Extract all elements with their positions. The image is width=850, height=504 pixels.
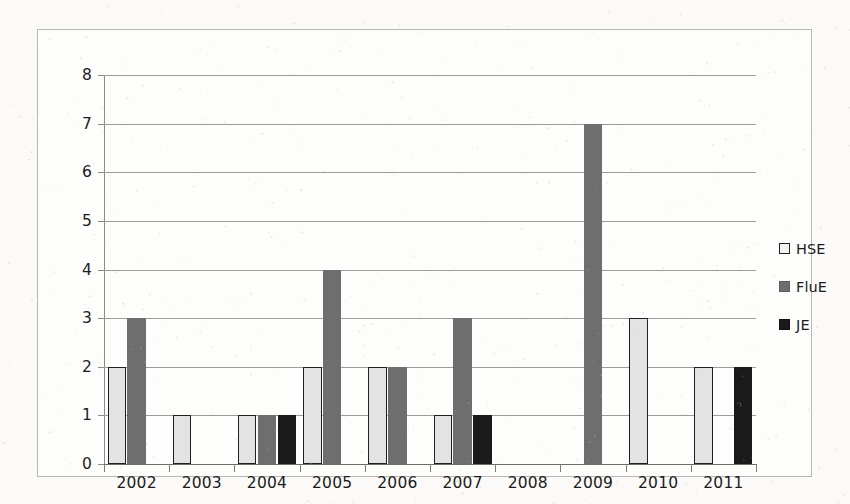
x-tick-label-2003: 2003 <box>169 474 234 492</box>
y-tick-mark-0 <box>98 464 104 465</box>
chart-legend: HSEFluEJE <box>779 234 827 348</box>
y-tick-mark-3 <box>98 318 104 319</box>
x-tick-mark-2 <box>234 464 235 472</box>
bar-flue-2004 <box>258 415 276 464</box>
gridline-y-4 <box>104 270 756 271</box>
y-tick-label-7: 7 <box>70 115 92 133</box>
gridline-y-2 <box>104 367 756 368</box>
legend-item-hse: HSE <box>779 234 827 263</box>
y-tick-mark-1 <box>98 415 104 416</box>
x-tick-mark-5 <box>430 464 431 472</box>
y-tick-mark-6 <box>98 172 104 173</box>
x-tick-mark-1 <box>169 464 170 472</box>
plot-area <box>104 75 756 464</box>
legend-label-flue: FluE <box>796 279 827 295</box>
x-tick-label-2009: 2009 <box>560 474 625 492</box>
y-tick-mark-5 <box>98 221 104 222</box>
y-tick-label-4: 4 <box>70 261 92 279</box>
x-tick-label-2005: 2005 <box>300 474 365 492</box>
x-tick-label-2007: 2007 <box>430 474 495 492</box>
y-tick-label-8: 8 <box>70 66 92 84</box>
x-tick-label-2008: 2008 <box>495 474 560 492</box>
legend-swatch-icon-hse <box>779 243 790 254</box>
y-tick-mark-8 <box>98 75 104 76</box>
y-tick-label-1: 1 <box>70 406 92 424</box>
bar-je-2007 <box>473 415 491 464</box>
x-tick-mark-10 <box>756 464 757 472</box>
x-tick-label-2004: 2004 <box>234 474 299 492</box>
chart-frame: 012345678 200220032004200520062007200820… <box>37 29 812 477</box>
y-axis-tick-labels: 012345678 <box>68 75 92 464</box>
y-tick-label-3: 3 <box>70 309 92 327</box>
bar-hse-2010 <box>629 318 647 464</box>
y-tick-label-2: 2 <box>70 358 92 376</box>
x-tick-mark-8 <box>626 464 627 472</box>
y-tick-label-6: 6 <box>70 163 92 181</box>
gridline-y-7 <box>104 124 756 125</box>
bar-hse-2005 <box>303 367 321 464</box>
legend-swatch-icon-flue <box>779 281 790 292</box>
bar-je-2004 <box>278 415 296 464</box>
x-tick-label-2006: 2006 <box>365 474 430 492</box>
x-tick-mark-4 <box>365 464 366 472</box>
bar-flue-2002 <box>127 318 145 464</box>
bar-hse-2011 <box>694 367 712 464</box>
gridline-y-1 <box>104 415 756 416</box>
x-tick-mark-7 <box>560 464 561 472</box>
legend-label-je: JE <box>796 317 810 333</box>
bar-hse-2006 <box>368 367 386 464</box>
bar-hse-2003 <box>173 415 191 464</box>
legend-swatch-icon-je <box>779 319 790 330</box>
bar-je-2011 <box>734 367 752 464</box>
y-tick-mark-4 <box>98 270 104 271</box>
x-tick-label-2011: 2011 <box>691 474 756 492</box>
y-tick-label-0: 0 <box>70 455 92 473</box>
x-tick-label-2010: 2010 <box>626 474 691 492</box>
gridline-y-5 <box>104 221 756 222</box>
y-tick-mark-7 <box>98 124 104 125</box>
gridline-y-3 <box>104 318 756 319</box>
bar-hse-2007 <box>434 415 452 464</box>
bar-flue-2005 <box>323 270 341 465</box>
x-tick-mark-0 <box>104 464 105 472</box>
x-tick-mark-3 <box>300 464 301 472</box>
bar-hse-2004 <box>238 415 256 464</box>
x-tick-mark-9 <box>691 464 692 472</box>
legend-label-hse: HSE <box>796 241 826 257</box>
bar-flue-2007 <box>453 318 471 464</box>
gridline-y-8 <box>104 75 756 76</box>
legend-item-je: JE <box>779 310 827 339</box>
gridline-y-6 <box>104 172 756 173</box>
bar-hse-2002 <box>108 367 126 464</box>
legend-item-flue: FluE <box>779 272 827 301</box>
x-tick-mark-6 <box>495 464 496 472</box>
x-tick-label-2002: 2002 <box>104 474 169 492</box>
y-tick-label-5: 5 <box>70 212 92 230</box>
bar-flue-2006 <box>388 367 406 464</box>
y-tick-mark-2 <box>98 367 104 368</box>
bar-flue-2009 <box>584 124 602 464</box>
